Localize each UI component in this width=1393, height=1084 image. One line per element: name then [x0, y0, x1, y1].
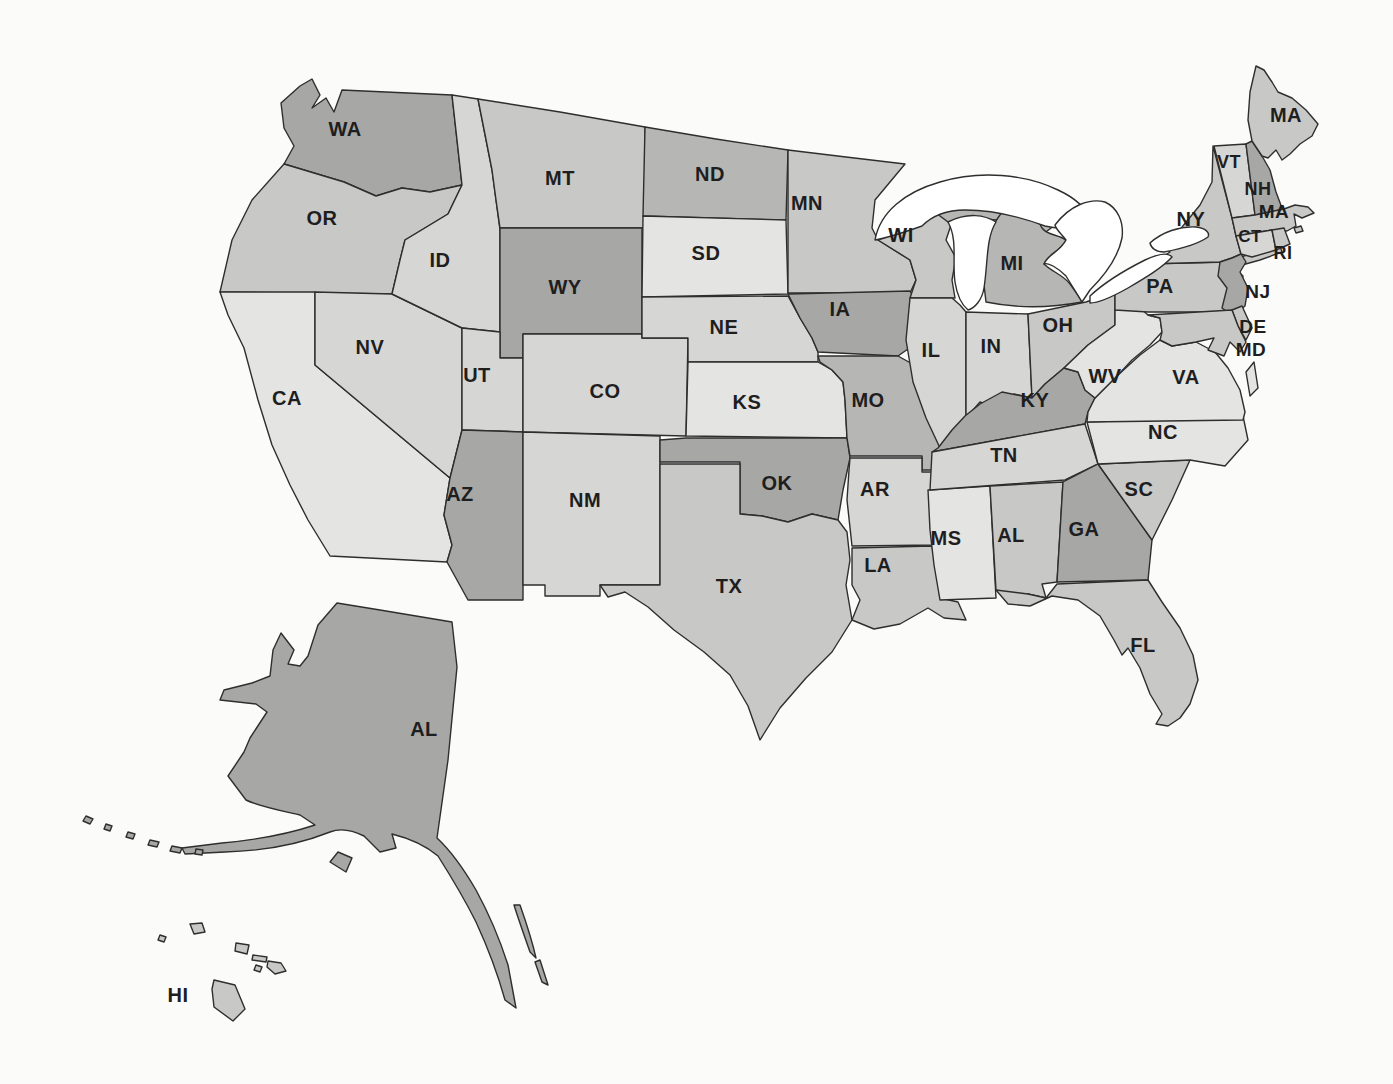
state-hi-shape	[252, 955, 267, 962]
state-label-il: IL	[922, 339, 941, 361]
state-label-ar: AR	[860, 478, 890, 500]
state-label-nj: NJ	[1245, 281, 1270, 302]
state-label-nc: NC	[1148, 421, 1178, 443]
state-label-mi: MI	[1000, 252, 1023, 274]
state-label-sd: SD	[692, 242, 721, 264]
state-label-tx: TX	[716, 575, 743, 597]
state-label-hi: HI	[168, 984, 189, 1006]
state-label-al: AL	[997, 524, 1025, 546]
state-ak-shape	[148, 840, 159, 847]
state-label-nm: NM	[569, 489, 601, 511]
state-hi	[158, 923, 286, 1021]
state-ak-shape	[514, 905, 536, 958]
state-label-ga: GA	[1069, 518, 1100, 540]
state-ak-shape	[195, 849, 203, 855]
state-ak-shape	[83, 816, 93, 824]
state-label-wa: WA	[328, 118, 361, 140]
state-label-sc: SC	[1125, 478, 1154, 500]
state-va-shape	[1246, 362, 1258, 396]
state-hi-shape	[190, 923, 205, 934]
state-label-ky: KY	[1021, 389, 1050, 411]
state-ma-shape	[1294, 226, 1303, 233]
state-hi-shape	[235, 943, 249, 954]
state-nm	[523, 432, 660, 596]
state-ks	[686, 362, 847, 438]
state-label-ks: KS	[733, 391, 762, 413]
state-label-ma: MA	[1259, 201, 1290, 222]
state-hi-shape	[212, 980, 245, 1021]
state-hi-shape	[254, 965, 262, 972]
state-label-oh: OH	[1043, 314, 1074, 336]
state-label-vt: VT	[1217, 152, 1241, 172]
state-label-az: AZ	[446, 483, 474, 505]
state-label-co: CO	[590, 380, 621, 402]
state-az	[444, 430, 523, 600]
state-ak-shape	[104, 824, 112, 831]
state-label-wy: WY	[548, 276, 581, 298]
state-label-id: ID	[430, 249, 451, 271]
state-label-ut: UT	[463, 364, 491, 386]
us-states-map: WAORCANVIDMTWYUTCOAZNMNDSDNEKSOKTXMNIAMO…	[0, 0, 1393, 1084]
state-fl	[996, 580, 1198, 726]
state-label-de: DE	[1239, 316, 1266, 337]
state-nm-shape	[523, 432, 660, 596]
states-layer	[83, 66, 1318, 1021]
state-ak-shape	[330, 852, 352, 872]
state-label-tn: TN	[990, 444, 1018, 466]
state-label-ri: RI	[1274, 243, 1293, 263]
state-fl-shape	[996, 580, 1198, 726]
state-label-in: IN	[981, 335, 1002, 357]
state-hi-shape	[158, 935, 166, 942]
state-ak-shape	[535, 960, 548, 985]
state-ak	[83, 603, 548, 1008]
state-label-va: VA	[1172, 366, 1199, 388]
scanned-map-page: WAORCANVIDMTWYUTCOAZNMNDSDNEKSOKTXMNIAMO…	[0, 0, 1393, 1084]
state-label-md: MD	[1236, 339, 1267, 360]
state-label-wv: WV	[1088, 365, 1121, 387]
state-label-or: OR	[307, 207, 338, 229]
state-mt-shape	[478, 99, 645, 228]
state-label-nd: ND	[695, 163, 725, 185]
state-label-ak: AL	[410, 718, 438, 740]
state-ks-shape	[686, 362, 847, 438]
state-label-ny: NY	[1177, 208, 1206, 230]
state-label-mn: MN	[791, 192, 823, 214]
state-label-me: MA	[1270, 104, 1302, 126]
state-ak-shape	[182, 603, 516, 1008]
state-ak-shape	[170, 846, 182, 853]
state-label-ct: CT	[1238, 227, 1262, 246]
state-label-pa: PA	[1146, 275, 1173, 297]
state-ak-shape	[126, 832, 135, 839]
state-label-nv: NV	[356, 336, 385, 358]
state-mt	[478, 99, 645, 228]
state-label-nh: NH	[1245, 179, 1272, 199]
state-label-mt: MT	[545, 167, 575, 189]
state-label-ne: NE	[710, 316, 739, 338]
state-label-ia: IA	[830, 298, 851, 320]
state-label-wi: WI	[888, 224, 913, 246]
state-az-shape	[444, 430, 523, 600]
state-label-ok: OK	[762, 472, 793, 494]
state-label-la: LA	[864, 554, 892, 576]
state-label-mo: MO	[851, 389, 884, 411]
state-label-ca: CA	[272, 387, 302, 409]
state-label-ms: MS	[931, 527, 962, 549]
state-hi-shape	[267, 961, 286, 974]
state-label-fl: FL	[1130, 634, 1155, 656]
